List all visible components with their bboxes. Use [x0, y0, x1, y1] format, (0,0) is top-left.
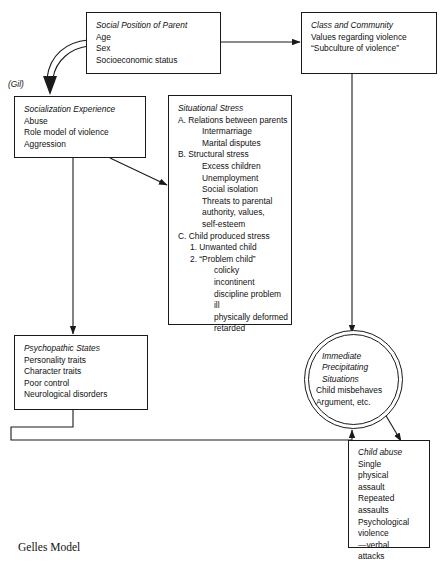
- node-line: Values regarding violence: [311, 32, 428, 44]
- node-title-line: Precipitating: [322, 362, 368, 374]
- node-line: assault: [358, 482, 423, 494]
- node-line: B. Structural stress: [178, 149, 285, 161]
- node-immediate-precipitating-situations: Immediate Precipitating Situations Child…: [304, 330, 403, 429]
- node-line: assaults: [358, 505, 423, 517]
- node-line: Repeated: [358, 493, 423, 505]
- node-psychopathic-states: Psychopathic States Personality traits C…: [14, 335, 148, 410]
- node-line: Neurological disorders: [24, 389, 139, 401]
- node-line: Poor control: [24, 378, 139, 390]
- node-line: physical: [358, 470, 423, 482]
- node-line: Psychological: [358, 517, 423, 529]
- node-line: Unemployment: [178, 173, 285, 185]
- node-child-abuse: Child abuse Single physical assault Repe…: [348, 440, 430, 548]
- connector-social-to-socialization-arrowhead: [43, 76, 57, 95]
- node-title: Socialization Experience: [24, 104, 137, 116]
- node-line: incontinent: [178, 277, 285, 289]
- node-title: Class and Community: [311, 20, 428, 32]
- node-line: Excess children: [178, 161, 285, 173]
- node-line: Personality traits: [24, 355, 139, 367]
- node-line: A. Relations between parents: [178, 115, 285, 127]
- node-line: Socioeconomic status: [96, 55, 212, 67]
- node-line: Age: [96, 32, 212, 44]
- node-line: 2. “Problem child”: [178, 254, 285, 266]
- node-line: —verbal: [358, 540, 423, 552]
- node-line: Single: [358, 459, 423, 471]
- connector-socialization-to-stress: [110, 158, 167, 185]
- node-line: Aggression: [24, 139, 137, 151]
- node-line: Child misbehaves: [316, 385, 382, 397]
- node-line: attacks: [358, 551, 423, 563]
- node-line: “Subculture of violence”: [311, 43, 428, 55]
- node-situational-stress: Situational Stress A. Relations between …: [168, 95, 292, 325]
- node-line: Intermarriage: [178, 126, 285, 138]
- node-line: physically deformed: [178, 312, 285, 324]
- node-title-line: Immediate: [322, 351, 361, 363]
- gelles-model-diagram: Social Position of Parent Age Sex Socioe…: [0, 0, 443, 568]
- node-title: Social Position of Parent: [96, 20, 212, 32]
- gil-attribution-label: (Gil): [8, 79, 24, 89]
- node-title: Situational Stress: [178, 103, 285, 115]
- node-line: Abuse: [24, 116, 137, 128]
- node-title-line: Situations: [322, 374, 359, 386]
- node-socialization-experience: Socialization Experience Abuse Role mode…: [14, 96, 146, 158]
- node-title: Psychopathic States: [24, 343, 139, 355]
- node-line: Social isolation: [178, 184, 285, 196]
- node-social-position-of-parent: Social Position of Parent Age Sex Socioe…: [86, 12, 221, 74]
- node-line: violence: [358, 528, 423, 540]
- node-line: Argument, etc.: [316, 397, 370, 409]
- node-line: Marital disputes: [178, 138, 285, 150]
- node-line: Sex: [96, 43, 212, 55]
- node-line: Threats to parental: [178, 196, 285, 208]
- node-line: Character traits: [24, 366, 139, 378]
- node-line: Role model of violence: [24, 127, 137, 139]
- node-line: self-esteem: [178, 219, 285, 231]
- node-class-and-community: Class and Community Values regarding vio…: [301, 12, 437, 74]
- connector-psychopathic-to-precipitating: [11, 410, 352, 440]
- node-line: ill: [178, 300, 285, 312]
- node-line: 1. Unwanted child: [178, 242, 285, 254]
- node-line: discipline problem: [178, 289, 285, 301]
- node-line: retarded: [178, 323, 285, 335]
- connector-social-to-socialization-inner: [53, 46, 89, 78]
- connector-social-to-socialization-outer: [47, 40, 88, 78]
- node-line: authority, values,: [178, 207, 285, 219]
- diagram-caption: Gelles Model: [18, 541, 80, 553]
- node-title: Child abuse: [358, 447, 423, 459]
- node-line: colicky: [178, 265, 285, 277]
- node-line: C. Child produced stress: [178, 231, 285, 243]
